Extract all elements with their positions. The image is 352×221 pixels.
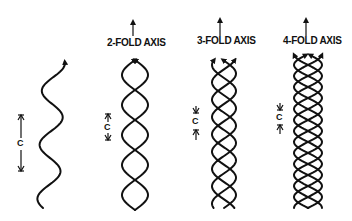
three-fold-axis-label: 3-FOLD AXIS: [197, 35, 256, 46]
single-helix-strand: [37, 62, 65, 208]
pitch-label-four: C: [276, 112, 283, 122]
pitch-label-single: C: [17, 138, 24, 148]
single-helix-panel: [18, 62, 65, 208]
three-fold-panel: [193, 20, 236, 208]
diagram-canvas: [0, 0, 352, 221]
four-fold-axis-label: 4-FOLD AXIS: [283, 35, 342, 46]
two-fold-axis-label: 2-FOLD AXIS: [107, 37, 166, 48]
two-fold-strands: [122, 60, 148, 210]
pitch-label-three: C: [192, 116, 199, 126]
four-fold-strands: [294, 55, 322, 208]
helix-strand: [212, 60, 236, 208]
pitch-label-two: C: [104, 122, 111, 132]
four-fold-panel: [277, 20, 322, 208]
helix-strand: [212, 60, 236, 208]
helix-symmetry-diagram: C C C C 2-FOLD AXIS 3-FOLD AXIS 4-FOLD A…: [0, 0, 352, 221]
helix-strand: [212, 60, 236, 208]
three-fold-strands: [212, 60, 236, 208]
two-fold-panel: [105, 22, 148, 210]
